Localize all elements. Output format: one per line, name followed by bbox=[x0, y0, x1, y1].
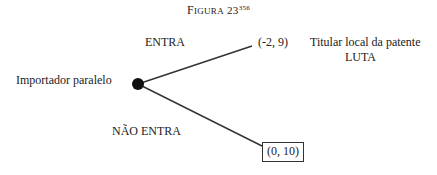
branch-line-entra bbox=[138, 46, 252, 84]
payoff-nao-entra-box: (0, 10) bbox=[262, 142, 304, 162]
payoff-nao-entra: (0, 10) bbox=[267, 144, 299, 158]
entrant-player-label: Importador paralelo bbox=[16, 73, 112, 88]
action-label-nao-entra: NÃO ENTRA bbox=[112, 124, 181, 139]
action-label-entra: ENTRA bbox=[145, 35, 185, 50]
decision-node bbox=[132, 78, 144, 90]
incumbent-action-label: LUTA bbox=[345, 50, 376, 65]
incumbent-player-label: Titular local da patente bbox=[310, 35, 421, 50]
payoff-entra: (-2, 9) bbox=[258, 35, 288, 50]
